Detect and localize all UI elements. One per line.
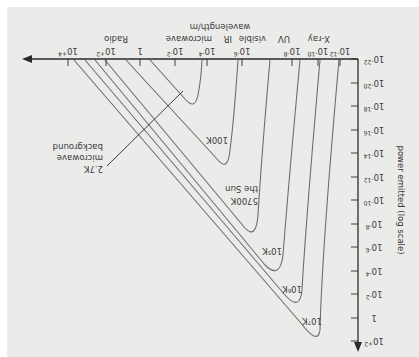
- curve-label-10e5K: 10⁵K: [262, 246, 282, 256]
- y-tick-label: 10-10: [364, 195, 385, 207]
- curve-label-the-sun: the Sun: [225, 184, 258, 194]
- cmb-pointer-line: [107, 91, 183, 166]
- x-tick-label: 10-4: [198, 46, 215, 58]
- curve-100K: [126, 60, 238, 164]
- curve-10e6K: [85, 60, 320, 302]
- y-tick-label: 10+2: [364, 336, 384, 348]
- x-ticks: 10-1210-1010-810-610-410-2110+210+4: [58, 46, 350, 66]
- curve-label-background: background: [53, 142, 103, 152]
- curve-label-10e6K: 10⁶K: [282, 284, 302, 294]
- curve-label-10e7K: 10⁷K: [302, 316, 322, 326]
- y-tick-label: 10-2: [365, 289, 382, 301]
- x-tick-label: 1: [137, 46, 142, 56]
- y-tick-label: 10-16: [364, 125, 385, 137]
- x-tick-label: 10-12: [330, 46, 351, 58]
- x-tick-label: 10-8: [283, 46, 300, 58]
- x-tick-label: 10+4: [58, 46, 78, 58]
- y-tick-label: 10-14: [364, 148, 385, 160]
- y-tick-label: 10-4: [365, 266, 382, 278]
- curve-label-5700K: 5700K: [230, 196, 258, 206]
- band-microwave: microwave: [166, 34, 212, 44]
- curve-label-microwave: microwave: [57, 153, 103, 163]
- y-tick-label: 10-18: [364, 101, 385, 113]
- band-visible: visible: [239, 34, 266, 44]
- curve-label-100K: 100K: [206, 135, 228, 145]
- band-radio: Radio: [104, 34, 128, 44]
- x-tick-label: 10-10: [308, 46, 329, 58]
- x-tick-label: 10+2: [96, 46, 116, 58]
- chart-container: 10-1210-1010-810-610-410-2110+210+4 10-2…: [0, 0, 419, 357]
- band-xray: X-ray: [308, 34, 330, 44]
- y-tick-label: 10-22: [364, 54, 385, 66]
- y-tick-label: 1: [371, 313, 376, 323]
- band-uv: UV: [278, 34, 290, 44]
- x-tick-label: 10-6: [233, 46, 250, 58]
- curve-label-2.7K: 2.7K: [83, 164, 103, 174]
- y-axis-arrow-icon: [354, 342, 362, 352]
- y-axis-title: power emitted (log scale): [396, 145, 406, 254]
- y-tick-label: 10-6: [365, 242, 382, 254]
- y-tick-label: 10-8: [365, 219, 382, 231]
- x-axis-title: wavelength/m: [190, 22, 251, 32]
- y-tick-label: 10-20: [364, 78, 385, 90]
- y-ticks: 10-2210-2010-1810-1610-1410-1210-1010-81…: [351, 54, 384, 348]
- chart-svg: 10-1210-1010-810-610-410-2110+210+4 10-2…: [0, 0, 419, 357]
- x-tick-label: 10-2: [166, 46, 183, 58]
- y-tick-label: 10-12: [364, 172, 385, 184]
- x-axis-arrow-icon: [22, 55, 32, 63]
- band-ir: IR: [223, 34, 232, 44]
- curve-10e5K: [95, 60, 300, 271]
